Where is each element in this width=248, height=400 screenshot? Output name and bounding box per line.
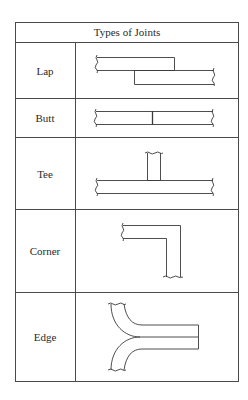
row-label-butt: Butt (15, 111, 75, 125)
joint-types-table: Types of Joints Lap Butt Tee Corner Edge (0, 0, 248, 400)
lap-joint-diagram (95, 55, 215, 86)
row-label-corner: Corner (15, 244, 75, 258)
row-label-tee: Tee (15, 167, 75, 181)
corner-joint-diagram (121, 223, 183, 278)
edge-joint-diagram (108, 303, 199, 371)
butt-joint-diagram (94, 109, 214, 127)
table-title: Types of Joints (15, 24, 239, 40)
row-label-lap: Lap (15, 64, 75, 78)
tee-joint-diagram (95, 152, 214, 196)
row-label-edge: Edge (15, 330, 75, 344)
